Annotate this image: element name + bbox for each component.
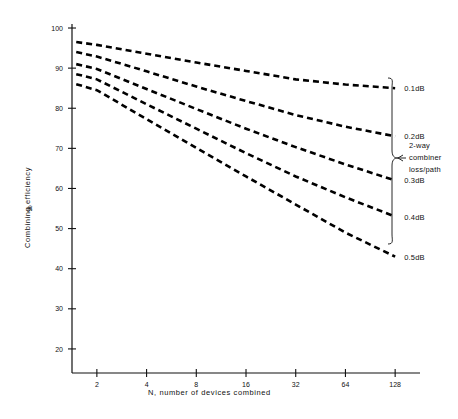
chart-figure: 2030405060708090100 248163264128 Combini… [0,0,458,419]
y-tick-label: 50 [55,225,63,232]
series-label-0p1dB: 0.1dB [404,84,425,93]
series-label-0p2dB: 0.2dB [404,132,425,141]
x-tick-label: 4 [145,381,149,388]
x-axis-ticks: 248163264128 [95,369,401,388]
y-tick-label: 20 [55,346,63,353]
series-label-0p4dB: 0.4dB [404,213,425,222]
series-line-0p5dB [76,84,395,257]
series-line-0p3dB [76,64,395,180]
x-tick-label: 64 [342,381,350,388]
brace-pointer-icon [398,155,406,161]
y-tick-label: 100 [51,25,63,32]
x-tick-label: 128 [389,381,401,388]
y-tick-label: 40 [55,265,63,272]
y-tick-label: 90 [55,65,63,72]
x-axis-title: N, number of devices combined [148,388,271,397]
legend-note-line-3: loss/path [409,165,441,174]
x-tick-label: 2 [95,381,99,388]
y-axis-units: % [25,205,34,212]
series-label-0p3dB: 0.3dB [404,176,425,185]
legend-note-line-2: combiner [409,153,442,162]
y-tick-label: 60 [55,185,63,192]
x-tick-label: 32 [292,381,300,388]
legend-note-line-1: 2-way [409,141,430,150]
axis-lines [72,24,420,373]
combining-efficiency-chart: 2030405060708090100 248163264128 Combini… [0,0,458,419]
x-tick-label: 16 [242,381,250,388]
series-label-0p5dB: 0.5dB [404,253,425,262]
x-tick-label: 8 [194,381,198,388]
series-line-0p4dB [76,74,395,216]
y-tick-label: 70 [55,145,63,152]
y-tick-label: 30 [55,305,63,312]
legend-brace-icon [388,78,398,244]
data-curves [76,42,395,257]
y-tick-label: 80 [55,105,63,112]
